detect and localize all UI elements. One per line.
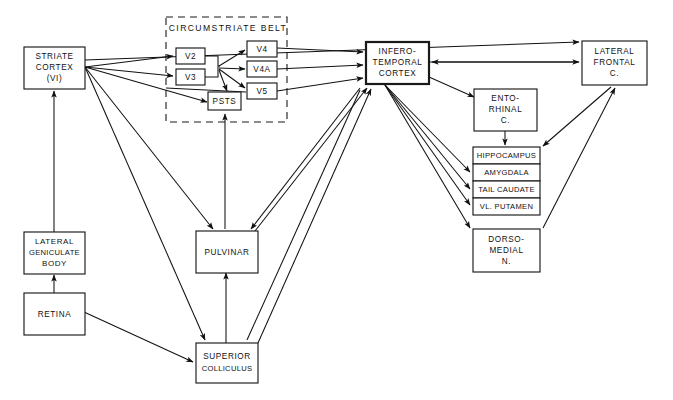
lateral-geniculate-body-label-line1: LATERAL [35,237,74,246]
lateral-geniculate-body-label-line3: BODY [42,259,67,268]
node-vl-putamen[interactable]: VL. PUTAMEN [473,198,540,215]
node-v4a[interactable]: V4A [247,61,277,77]
edge-striate-cortex-to-superior-colliculus [85,67,205,340]
node-amygdala[interactable]: AMYGDALA [473,164,540,181]
lateral-frontal-c-label-line1: LATERAL [595,47,635,56]
edge-superior-colliculus-right-diagonal [247,90,360,340]
node-hippocampus[interactable]: HIPPOCAMPUS [473,147,540,164]
superior-colliculus-label-line2: COLLICULUS [202,364,253,373]
tail-caudate-label: TAIL CAUDATE [478,185,535,194]
dorsomedial-n-label-line1: DORSO- [488,235,524,244]
edge-v4a-to-inferotemporal-cortex [277,65,363,69]
edge-inferotemporal-cortex-to-vl-putamen [385,85,470,205]
entorhinal-c-label-line2: RHINAL [489,105,523,114]
dorsomedial-n-label-line2: MEDIAL [489,246,523,255]
psts-label: PSTS [213,97,237,106]
edge-inferotemporal-cortex-to-amygdala [385,85,470,172]
node-striate-cortex[interactable]: STRIATE CORTEX (VI) [24,47,85,89]
node-v4[interactable]: V4 [247,41,277,57]
node-v3[interactable]: V3 [176,69,205,85]
node-dorsomedial-n[interactable]: DORSO- MEDIAL N. [473,229,540,272]
node-v2[interactable]: V2 [176,48,205,64]
edge-v2-to-v5 [219,69,245,88]
superior-colliculus-box[interactable] [196,343,258,383]
edge-pulvinar-to-inferotemporal-cortex [255,88,367,231]
v4-label: V4 [256,45,267,54]
node-lateral-frontal-c[interactable]: LATERAL FRONTAL C. [582,41,647,85]
edge-v5-to-inferotemporal-cortex [277,78,363,91]
circumstriate-belt-title: CIRCUMSTRIATE BELT [169,23,287,33]
edge-striate-cortex-to-v3 [85,67,173,76]
edge-inferotemporal-cortex-to-pulvinar [251,88,360,229]
edge-retina-to-superior-colliculus [84,312,193,362]
edge-striate-cortex-to-pulvinar [85,67,213,229]
striate-cortex-label-line3: (VI) [47,74,63,83]
inferotemporal-cortex-label-line1: INFERO- [379,47,417,56]
edge-inferotemporal-cortex-to-entorhinal-c [429,77,474,97]
edge-v2-to-v4 [219,50,245,66]
lateral-frontal-c-label-line2: FRONTAL [594,58,636,67]
lateral-geniculate-body-label-line2: GENICULATE [29,248,80,257]
lateral-frontal-c-label-line3: C. [610,69,619,78]
node-pulvinar[interactable]: PULVINAR [196,231,258,273]
dorsomedial-n-label-line3: N. [502,257,511,266]
retina-label: RETINA [38,310,72,319]
v4a-label: V4A [253,65,270,74]
edge-inferotemporal-cortex-to-dorsomedial-n [385,85,470,228]
hippocampus-label: HIPPOCAMPUS [477,151,536,160]
v5-label: V5 [256,87,267,96]
diagram-canvas: CIRCUMSTRIATE BELT STRIATE CORTEX (VI) V… [0,0,673,400]
node-tail-caudate[interactable]: TAIL CAUDATE [473,181,540,198]
inferotemporal-cortex-label-line3: CORTEX [379,69,417,78]
node-v5[interactable]: V5 [247,83,277,99]
edge-v3-to-v4 [166,88,246,92]
entorhinal-c-label-line1: ENTO- [491,94,519,103]
edge-v2-to-v4a [219,68,245,69]
superior-colliculus-label-line1: SUPERIOR [203,352,251,361]
edge-superior-colliculus-to-inferotemporal-cortex [258,89,371,343]
edge-inferotemporal-cortex-to-tail-caudate [385,85,470,189]
node-psts[interactable]: PSTS [208,92,241,110]
edge-v2-to-psts [219,70,227,91]
vl-putamen-label: VL. PUTAMEN [480,202,533,211]
amygdala-label: AMYGDALA [484,168,529,177]
pulvinar-label: PULVINAR [204,248,249,257]
inferotemporal-cortex-label-line2: TEMPORAL [373,58,423,67]
edge-v2-v3-merge-stub [205,56,218,77]
entorhinal-c-label-line3: C. [501,116,510,125]
v2-label: V2 [185,52,196,61]
node-superior-colliculus[interactable]: SUPERIOR COLLICULUS [196,343,258,383]
connectivity-diagram: CIRCUMSTRIATE BELT STRIATE CORTEX (VI) V… [0,0,673,400]
striate-cortex-label-line1: STRIATE [35,52,73,61]
node-lateral-geniculate-body[interactable]: LATERAL GENICULATE BODY [24,232,85,274]
node-entorhinal-c[interactable]: ENTO- RHINAL C. [474,89,537,131]
edge-dorsomedial-n-to-lateral-frontal [543,88,615,228]
node-inferotemporal-cortex[interactable]: INFERO- TEMPORAL CORTEX [366,42,429,84]
striate-cortex-label-line2: CORTEX [36,63,74,72]
v3-label: V3 [185,73,196,82]
node-retina[interactable]: RETINA [24,293,85,335]
